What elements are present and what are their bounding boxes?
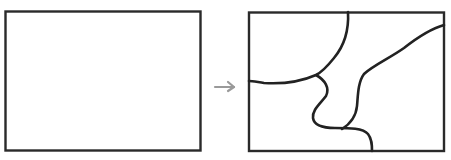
- after-panel: [249, 12, 444, 151]
- empty-rectangle: [6, 12, 201, 151]
- diagram-canvas: [0, 0, 451, 160]
- before-panel: [6, 12, 201, 151]
- right-arrow-icon: [215, 82, 234, 91]
